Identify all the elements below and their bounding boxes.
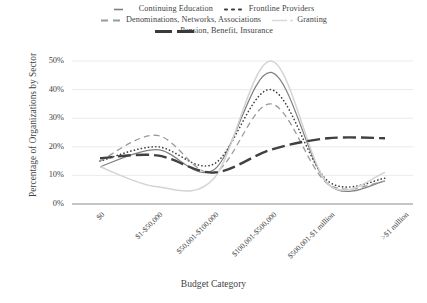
- x-axis-title: Budget Category: [0, 278, 427, 289]
- y-axis-title: Percentage of Organizations by Sector: [28, 30, 38, 220]
- plot-area: 50% 40% 30% 20% 10% 0% $0 $1-$50,000 $50…: [0, 0, 427, 303]
- series-line-granting: [100, 61, 385, 191]
- series-line-pension-benefit-insurance: [100, 137, 385, 172]
- series-line-continuing-education: [100, 72, 385, 191]
- series-paths: [100, 61, 385, 191]
- series-line-frontline-providers: [100, 90, 385, 188]
- chart-figure: Continuing Education Frontline Providers: [0, 0, 427, 303]
